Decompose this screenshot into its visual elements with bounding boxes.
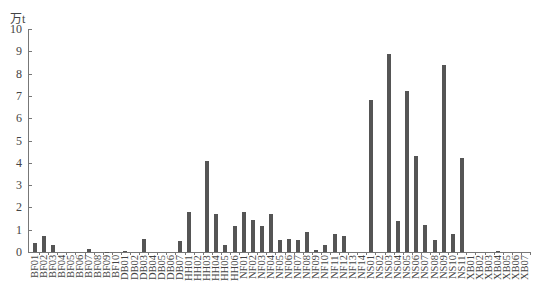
y-tick [28, 230, 32, 231]
x-tick-label: HH05 [220, 255, 229, 291]
y-tick-label: 9 [2, 45, 22, 57]
bar-hh03 [205, 161, 209, 252]
bar-nf04 [269, 214, 273, 252]
bar-nf09 [314, 250, 318, 252]
y-tick-label: 7 [2, 90, 22, 102]
bar-nf10 [323, 245, 327, 252]
y-tick [28, 252, 32, 253]
bar-ns06 [414, 156, 418, 252]
bar-bf03 [51, 245, 55, 252]
bar-ns03 [387, 54, 391, 252]
bar-ns10 [451, 234, 455, 252]
bar-bf01 [33, 243, 37, 252]
y-tick [28, 185, 32, 186]
y-tick-label: 0 [2, 246, 22, 258]
bar-db07 [178, 241, 182, 252]
bar-ns11 [460, 158, 464, 252]
bar-ns07 [423, 225, 427, 252]
bar-nf12 [342, 236, 346, 252]
x-tick-label: NS07 [420, 255, 429, 291]
bar-nf05 [278, 240, 282, 252]
bar-nf03 [260, 226, 264, 252]
y-tick [28, 118, 32, 119]
bar-ns04 [396, 221, 400, 252]
bar-nf07 [296, 240, 300, 252]
x-tick-label: DB01 [120, 255, 129, 291]
y-tick-label: 3 [2, 179, 22, 191]
bar-hh06 [233, 226, 237, 252]
y-tick-label: 6 [2, 112, 22, 124]
bar-hh01 [187, 212, 191, 252]
y-tick [28, 96, 32, 97]
bar-ns09 [442, 65, 446, 252]
bar-chart: 万t 012345678910 BF01BF02BF03BF04BF05BF06… [0, 0, 534, 291]
y-tick [28, 163, 32, 164]
y-tick [28, 51, 32, 52]
y-tick-label: 10 [2, 23, 22, 35]
bar-nf11 [333, 234, 337, 252]
y-tick-label: 8 [2, 68, 22, 80]
bar-hh05 [223, 245, 227, 252]
y-tick-label: 1 [2, 224, 22, 236]
y-tick [28, 74, 32, 75]
bar-bf02 [42, 236, 46, 252]
bar-bf07 [87, 249, 91, 252]
x-tick-label: XB07 [520, 255, 529, 291]
y-tick-label: 4 [2, 157, 22, 169]
x-tick-label: NF10 [320, 255, 329, 291]
bar-bf09 [105, 252, 109, 253]
y-tick-label: 2 [2, 201, 22, 213]
bar-hh04 [214, 214, 218, 252]
bar-nf08 [305, 232, 309, 252]
bar-db03 [142, 239, 146, 252]
y-tick [28, 141, 32, 142]
bar-nf01 [242, 212, 246, 252]
y-tick-label: 5 [2, 135, 22, 147]
bar-ns01 [369, 100, 373, 252]
y-tick [28, 207, 32, 208]
bar-ns08 [433, 240, 437, 252]
bar-nf02 [251, 220, 255, 252]
bar-ns05 [405, 91, 409, 252]
bar-xb04 [496, 251, 500, 252]
bar-nf06 [287, 239, 291, 252]
x-tick [530, 252, 531, 255]
y-tick [28, 29, 32, 30]
bar-db01 [123, 251, 127, 252]
